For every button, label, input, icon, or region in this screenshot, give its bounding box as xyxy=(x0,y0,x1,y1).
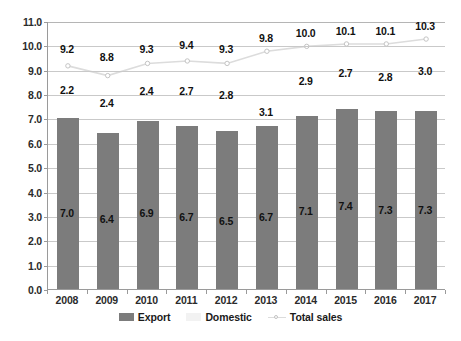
bar-export xyxy=(137,121,159,289)
x-axis-tick-label: 2012 xyxy=(204,294,248,306)
y-tick-mark xyxy=(44,266,48,267)
y-axis-tick-label: 6.0 xyxy=(2,138,42,150)
legend-item-total-sales[interactable]: Total sales xyxy=(268,311,342,323)
y-tick-mark xyxy=(44,168,48,169)
y-tick-mark xyxy=(44,241,48,242)
bar-export xyxy=(216,131,238,289)
bar-export xyxy=(57,118,79,289)
x-axis-tick-label: 2015 xyxy=(324,294,368,306)
y-axis-tick-label: 5.0 xyxy=(2,162,42,174)
total-sales-marker xyxy=(265,49,269,53)
data-label-export: 7.3 xyxy=(368,204,402,216)
gridline xyxy=(48,46,445,47)
data-label-export: 6.9 xyxy=(130,207,164,219)
data-label-total-sales: 9.3 xyxy=(208,43,244,55)
gridline xyxy=(48,22,445,23)
total-sales-marker xyxy=(225,61,229,65)
data-label-domestic: 3.1 xyxy=(249,106,283,118)
y-tick-mark xyxy=(44,217,48,218)
x-axis-tick-label: 2011 xyxy=(164,294,208,306)
y-axis-tick-label: 8.0 xyxy=(2,89,42,101)
data-label-total-sales: 9.3 xyxy=(129,43,165,55)
data-label-export: 6.7 xyxy=(169,211,203,223)
bar-export xyxy=(256,126,278,289)
legend-label-domestic: Domestic xyxy=(205,311,251,323)
total-sales-marker xyxy=(66,64,70,68)
total-sales-marker xyxy=(185,59,189,63)
data-label-export: 7.1 xyxy=(289,205,323,217)
data-label-total-sales: 10.3 xyxy=(407,20,443,32)
export-swatch-icon xyxy=(119,313,134,321)
data-label-domestic: 2.8 xyxy=(209,89,243,101)
gridline xyxy=(48,95,445,96)
total-sales-marker xyxy=(424,37,428,41)
data-label-total-sales: 9.8 xyxy=(248,32,284,44)
y-axis-tick-label: 0.0 xyxy=(2,284,42,296)
x-axis-tick-label: 2009 xyxy=(85,294,129,306)
data-label-total-sales: 10.0 xyxy=(288,27,324,39)
data-label-domestic: 3.0 xyxy=(408,65,442,77)
x-axis-tick-label: 2008 xyxy=(45,294,89,306)
data-label-total-sales: 10.1 xyxy=(328,25,364,37)
data-label-domestic: 2.7 xyxy=(169,85,203,97)
data-label-domestic: 2.4 xyxy=(130,85,164,97)
y-tick-mark xyxy=(44,46,48,47)
y-tick-mark xyxy=(44,193,48,194)
total-sales-marker xyxy=(145,61,149,65)
bar-export xyxy=(415,111,437,289)
bar-export xyxy=(336,109,358,289)
y-axis-tick-label: 3.0 xyxy=(2,211,42,223)
data-label-export: 7.0 xyxy=(50,207,84,219)
bar-export xyxy=(296,116,318,289)
chart-legend: Export Domestic Total sales xyxy=(0,311,461,323)
data-label-total-sales: 8.8 xyxy=(89,51,125,63)
legend-item-export[interactable]: Export xyxy=(119,311,171,323)
data-label-domestic: 2.4 xyxy=(90,97,124,109)
data-label-total-sales: 9.4 xyxy=(168,39,204,51)
data-label-domestic: 2.9 xyxy=(289,75,323,87)
total-sales-marker xyxy=(106,73,110,77)
data-label-export: 6.5 xyxy=(209,215,243,227)
data-label-export: 6.7 xyxy=(249,211,283,223)
x-axis-tick-label: 2010 xyxy=(125,294,169,306)
data-label-domestic: 2.2 xyxy=(50,84,84,96)
y-axis-tick-label: 11.0 xyxy=(2,16,42,28)
y-axis-tick-label: 9.0 xyxy=(2,65,42,77)
data-label-domestic: 2.7 xyxy=(329,67,363,79)
y-axis-tick-label: 1.0 xyxy=(2,260,42,272)
y-tick-mark xyxy=(44,144,48,145)
legend-label-export: Export xyxy=(138,311,171,323)
data-label-total-sales: 9.2 xyxy=(49,43,85,55)
domestic-swatch-icon xyxy=(186,313,201,321)
y-tick-mark xyxy=(44,22,48,23)
bar-export xyxy=(375,111,397,289)
y-axis-tick-label: 10.0 xyxy=(2,40,42,52)
chart-container: 0.01.02.03.04.05.06.07.08.09.010.011.0 2… xyxy=(0,0,461,341)
y-tick-mark xyxy=(44,95,48,96)
data-label-export: 7.3 xyxy=(408,204,442,216)
total-sales-line-icon xyxy=(268,313,286,321)
bar-export xyxy=(176,126,198,289)
y-tick-mark xyxy=(44,119,48,120)
data-label-export: 6.4 xyxy=(90,213,124,225)
x-axis-tick-label: 2013 xyxy=(244,294,288,306)
data-label-total-sales: 10.1 xyxy=(367,25,403,37)
legend-item-domestic[interactable]: Domestic xyxy=(186,311,251,323)
x-axis-tick-label: 2014 xyxy=(284,294,328,306)
bar-export xyxy=(97,133,119,289)
legend-label-total-sales: Total sales xyxy=(290,311,342,323)
y-axis-tick-label: 2.0 xyxy=(2,235,42,247)
y-tick-mark xyxy=(44,71,48,72)
y-axis-tick-label: 4.0 xyxy=(2,187,42,199)
y-axis-tick-label: 7.0 xyxy=(2,113,42,125)
data-label-domestic: 2.8 xyxy=(368,71,402,83)
x-axis-tick-label: 2016 xyxy=(363,294,407,306)
x-axis-tick-label: 2017 xyxy=(403,294,447,306)
data-label-export: 7.4 xyxy=(329,200,363,212)
